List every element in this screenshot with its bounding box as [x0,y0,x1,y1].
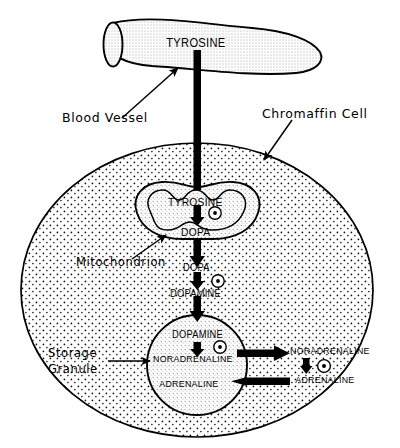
granule-adrenaline-label: ADRENALINE [159,378,218,389]
storage-granule-label-line2: Granule [48,362,98,376]
cytoplasm-dopamine-label: DOPAMINE [170,288,221,299]
cytosol-noradrenaline-label: NORADRENALINE [290,345,370,356]
cytoplasm-dopa-label: DOPA [183,262,210,273]
diagram-canvas: TYROSINE Blood Vessel Chromaffin Cell Mi… [0,0,400,448]
chromaffin-cell-label: Chromaffin Cell [262,106,368,121]
mito-dopa-label: DOPA [181,226,210,238]
cytosol-adrenaline-label: ADRENALINE [295,374,354,385]
granule-noradrenaline-label: NORADRENALINE [153,353,233,364]
storage-granule-label-line1: Storage [48,346,97,360]
vessel-tyrosine-label: TYROSINE [166,36,225,50]
mito-tyrosine-label: TYROSINE [168,196,223,208]
blood-vessel-label: Blood Vessel [62,110,148,125]
granule-dopamine-label: DOPAMINE [172,329,223,340]
mitochondrion-label: Mitochondrion [76,255,166,269]
